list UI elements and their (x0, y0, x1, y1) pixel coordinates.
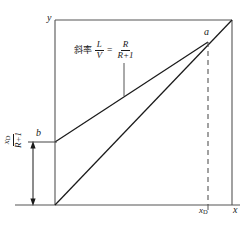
intercept-numerator-symbol: x (1, 140, 11, 144)
intercept-denominator: R+1 (14, 130, 24, 150)
slope-annotation: 斜率 L V = R R+1 (74, 40, 136, 61)
x-axis-label: x (233, 205, 237, 215)
intercept-dimension-arrow (30, 141, 35, 206)
intercept-fraction: xD R+1 (2, 130, 24, 150)
point-a-label: a (204, 27, 209, 37)
intercept-dimension-label: xD R+1 (2, 130, 24, 150)
slope-lv-fraction: L V (95, 40, 105, 61)
slope-lv-numerator: L (95, 40, 104, 51)
slope-annotation-text: 斜率 (74, 46, 93, 55)
xd-tick-label: xD (199, 206, 208, 216)
slope-equals-sign: = (106, 46, 113, 56)
slope-lv-denominator: V (95, 51, 105, 61)
figure-container: y x a b xD 斜率 L V = R R+1 xD R+1 (0, 0, 244, 227)
intercept-numerator-subscript: D (4, 136, 11, 141)
slope-ratio-fraction: R R+1 (115, 40, 135, 61)
slope-ratio-denominator: R+1 (115, 51, 135, 61)
xd-tick-subscript: D (203, 208, 208, 215)
y-axis-label: y (47, 13, 51, 23)
intercept-numerator: xD (2, 134, 14, 147)
point-b-label: b (36, 128, 41, 138)
slope-ratio-numerator: R (121, 40, 131, 51)
